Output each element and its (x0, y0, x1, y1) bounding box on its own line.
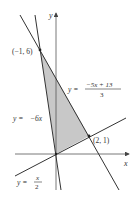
vertex-point-origin (55, 153, 57, 155)
svg-text:3: 3 (100, 91, 104, 99)
line-y-neg5x-plus13-over3 (20, 15, 119, 190)
label-line-neg6x: y = −6x (12, 114, 43, 123)
vertex-point-neg1-6 (39, 49, 42, 52)
point-label-2-1: (2, 1) (93, 136, 110, 145)
svg-text:x: x (35, 174, 40, 182)
svg-text:y =: y = (12, 114, 23, 123)
vertex-point-2-1 (88, 135, 91, 138)
y-axis-label: y (48, 11, 53, 20)
label-line-half-x: y = x 2 (16, 174, 42, 191)
svg-text:−5x + 13: −5x + 13 (86, 81, 113, 89)
x-axis-label: x (123, 159, 128, 168)
diagram-canvas: y x (−1, 6) (2, 1) y = −5x + 13 3 y = −6… (0, 0, 135, 203)
svg-text:y =: y = (16, 178, 27, 187)
point-label-neg1-6: (−1, 6) (12, 47, 33, 56)
svg-text:2: 2 (35, 183, 39, 191)
svg-text:y =: y = (67, 85, 78, 94)
svg-text:−6x: −6x (30, 114, 43, 123)
shaded-feasible-region (40, 50, 89, 154)
label-line-neg5x13: y = −5x + 13 3 (67, 81, 121, 99)
